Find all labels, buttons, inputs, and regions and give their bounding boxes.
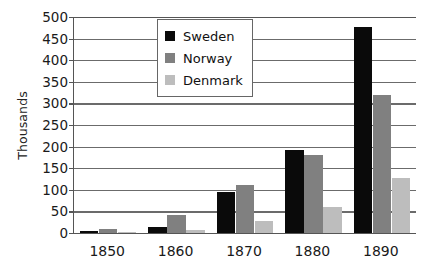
bar-sweden-1890 (354, 27, 373, 234)
legend-label: Sweden (183, 29, 234, 44)
bar-norway-1870 (236, 185, 255, 233)
bar-norway-1850 (99, 229, 118, 233)
y-axis-tick-label: 0 (28, 225, 68, 241)
y-axis-tick-mark (69, 233, 74, 234)
x-axis-tick-label: 1860 (141, 243, 209, 259)
bar-denmark-1850 (118, 232, 137, 233)
legend-item-norway: Norway (165, 47, 243, 69)
bar-group (348, 17, 416, 233)
x-axis-tick-label: 1850 (73, 243, 141, 259)
bar-group (74, 17, 142, 233)
bar-sweden-1850 (80, 231, 99, 233)
y-axis-tick-label: 450 (28, 31, 68, 47)
y-axis-tick-label: 400 (28, 52, 68, 68)
x-axis-tick-labels: 18501860187018801890 (73, 243, 415, 267)
bar-norway-1890 (373, 95, 392, 233)
y-axis-tick-label: 250 (28, 117, 68, 133)
bar-denmark-1870 (255, 221, 274, 233)
legend-swatch-denmark-icon (165, 75, 175, 85)
bar-denmark-1860 (186, 230, 205, 233)
bar-norway-1880 (304, 155, 323, 233)
bar-sweden-1870 (217, 192, 236, 233)
bar-norway-1860 (167, 215, 186, 233)
chart-legend: SwedenNorwayDenmark (157, 19, 253, 97)
x-axis-tick-label: 1880 (278, 243, 346, 259)
y-axis-tick-label: 150 (28, 160, 68, 176)
y-axis-tick-label: 50 (28, 203, 68, 219)
bar-sweden-1860 (148, 227, 167, 233)
legend-item-sweden: Sweden (165, 25, 243, 47)
bar-chart: Thousands 050100150200250300350400450500… (0, 0, 431, 277)
y-axis-tick-label: 500 (28, 9, 68, 25)
bar-denmark-1890 (392, 178, 411, 233)
y-axis-tick-label: 200 (28, 139, 68, 155)
legend-item-denmark: Denmark (165, 69, 243, 91)
y-axis-tick-label: 100 (28, 182, 68, 198)
legend-label: Denmark (183, 73, 243, 88)
bar-group (279, 17, 347, 233)
bar-denmark-1880 (323, 207, 342, 233)
y-axis-tick-label: 300 (28, 95, 68, 111)
y-axis-tick-labels: 050100150200250300350400450500 (28, 9, 68, 241)
legend-swatch-sweden-icon (165, 31, 175, 41)
y-axis-tick-label: 350 (28, 74, 68, 90)
x-axis-tick-label: 1890 (347, 243, 415, 259)
x-axis-tick-label: 1870 (210, 243, 278, 259)
bar-sweden-1880 (285, 150, 304, 233)
legend-label: Norway (183, 51, 232, 66)
legend-swatch-norway-icon (165, 53, 175, 63)
